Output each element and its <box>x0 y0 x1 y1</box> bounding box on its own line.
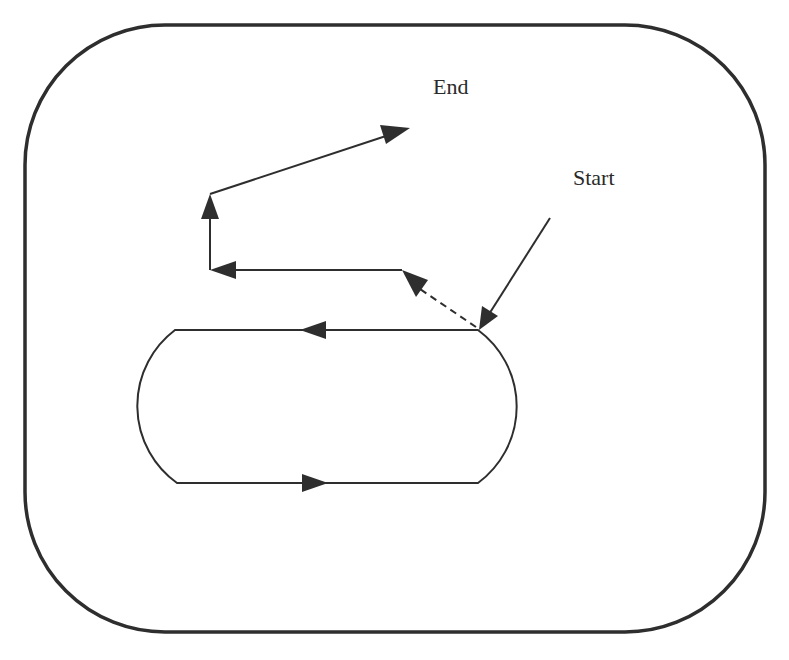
closed-loop <box>137 330 516 483</box>
start-pointer-arrowhead-icon <box>479 306 498 330</box>
end-arrowhead-icon <box>380 125 410 144</box>
start-label: Start <box>573 165 615 190</box>
end-label: End <box>433 74 468 99</box>
start-pointer-line <box>484 218 550 322</box>
dashed-exit-segment <box>420 289 476 327</box>
outer-boundary <box>25 25 765 632</box>
diagram-canvas: End Start <box>0 0 789 660</box>
loop-top-arrowhead-icon <box>300 321 326 339</box>
diagonal-segment <box>210 134 392 194</box>
loop-bottom-arrowhead-icon <box>302 474 328 492</box>
vertical-arrowhead-icon <box>201 194 219 219</box>
horizontal-arrowhead-icon <box>210 261 236 279</box>
